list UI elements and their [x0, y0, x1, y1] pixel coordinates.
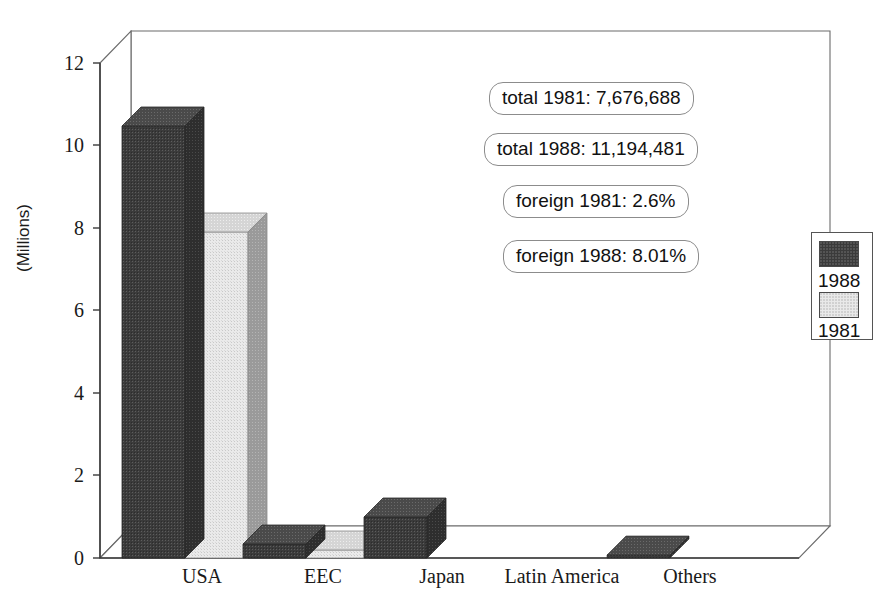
y-tick-label-10: 10: [42, 135, 84, 155]
x-tick-label-others: Others: [663, 565, 716, 588]
legend-swatch-1981: [819, 292, 859, 318]
y-tick-label-8: 8: [42, 218, 84, 238]
legend-label-1981: 1981: [818, 321, 860, 340]
bar-others-1988: [607, 536, 689, 558]
bar-usa-1988: [122, 107, 204, 558]
y-tick-label-4: 4: [42, 383, 84, 403]
y-tick-label-0: 0: [42, 548, 84, 568]
annotation-total-1981: total 1981: 7,676,688: [489, 82, 694, 115]
x-tick-label-latin-america: Latin America: [505, 565, 620, 588]
annotation-total-1988: total 1988: 11,194,481: [484, 133, 698, 166]
y-axis-title: (Millions): [14, 204, 34, 272]
annotation-foreign-1981: foreign 1981: 2.6%: [503, 185, 689, 218]
chart-legend: 1988 1981: [811, 232, 873, 340]
x-tick-label-usa: USA: [182, 565, 222, 588]
y-tick-label-6: 6: [42, 300, 84, 320]
bar-japan-1988: [364, 498, 446, 558]
legend-swatch-1988: [819, 241, 859, 267]
chart-figure: 0 2 4 6 8 10 12 (Millions) USA EEC Japan…: [0, 0, 895, 613]
annotation-foreign-1988: foreign 1988: 8.01%: [503, 240, 699, 273]
x-tick-label-eec: EEC: [304, 565, 342, 588]
legend-label-1988: 1988: [818, 271, 860, 290]
y-tick-label-2: 2: [42, 465, 84, 485]
x-tick-label-japan: Japan: [419, 565, 465, 588]
bar-series-group: [0, 0, 895, 613]
y-tick-label-12: 12: [42, 53, 84, 73]
